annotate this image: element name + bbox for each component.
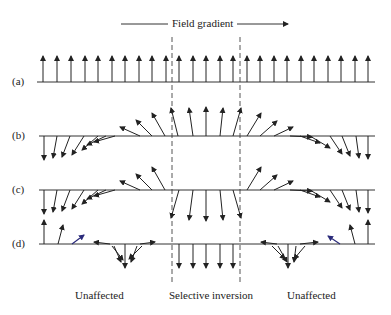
row-label-d: (d) (12, 237, 25, 249)
row-a-vectors (43, 56, 368, 82)
region-label-right: Unaffected (287, 289, 336, 301)
row-label-c: (c) (12, 183, 24, 195)
region-label-center: Selective inversion (169, 289, 253, 301)
row-d-highlight-vectors (72, 235, 340, 244)
selective-inversion-diagram: Field gradient (a) (b) (c) (d) Unaffecte… (0, 0, 391, 315)
field-gradient-title: Field gradient (172, 17, 233, 29)
row-b-vectors (44, 107, 368, 160)
diagram-canvas (0, 0, 391, 315)
region-label-left: Unaffected (75, 289, 124, 301)
row-c-vectors (44, 167, 368, 221)
row-label-b: (b) (12, 129, 25, 141)
row-label-a: (a) (12, 75, 24, 87)
